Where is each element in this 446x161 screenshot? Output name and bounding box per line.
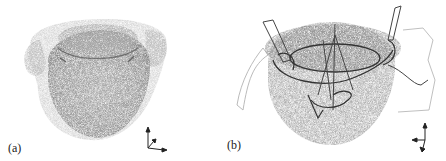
- surface-rendering-b: [223, 0, 446, 161]
- surface-rendering-a: [0, 0, 223, 161]
- panel-label-b: (b): [227, 138, 241, 153]
- axes-indicator-icon: [146, 127, 167, 152]
- figure-panel-a: (a): [0, 0, 223, 161]
- panel-label-a: (a): [8, 141, 21, 156]
- figure-panel-b: (b): [223, 0, 446, 161]
- axes-indicator-icon: [412, 123, 427, 152]
